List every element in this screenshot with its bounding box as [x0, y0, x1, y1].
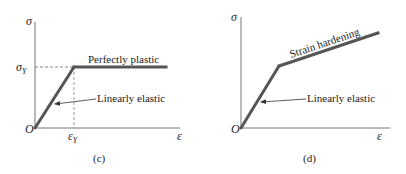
origin-label: O [231, 122, 240, 136]
elastic-arrow [261, 99, 306, 102]
yield-strain-subscript: Y [73, 136, 79, 145]
x-axis-label: ε [177, 129, 182, 143]
yield-stress-label: σY [16, 60, 28, 76]
stress-strain-figure: σ σY O εY ε Perfectly plastic Linearly e… [0, 0, 406, 174]
linearly-elastic-label: Linearly elastic [97, 92, 165, 104]
yield-strain-label: εY [68, 129, 79, 145]
panel-caption: (c) [93, 152, 106, 165]
x-axis-label: ε [377, 129, 382, 143]
panel-d: σ O ε Strain hardening Linearly elastic … [231, 10, 390, 165]
panel-c: σ σY O εY ε Perfectly plastic Linearly e… [16, 14, 182, 165]
panel-caption: (d) [303, 152, 316, 165]
linearly-elastic-label: Linearly elastic [307, 92, 375, 104]
yield-stress-subscript: Y [22, 67, 28, 76]
y-axis-label: σ [231, 10, 238, 24]
perfectly-plastic-label: Perfectly plastic [88, 53, 159, 65]
elastic-curve-segment [241, 66, 279, 128]
elastic-curve-segment [35, 67, 74, 128]
y-axis-label: σ [26, 14, 33, 28]
origin-label: O [25, 122, 34, 136]
elastic-arrow [55, 99, 96, 104]
